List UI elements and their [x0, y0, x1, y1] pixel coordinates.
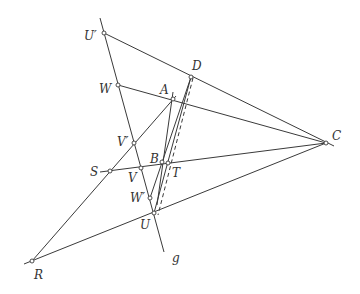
geometry-diagram: U′ D W A C V′ S B T V W′ U R g: [0, 0, 360, 294]
point-v-prime: [132, 141, 136, 145]
line-w-c: [118, 85, 326, 143]
label-v-prime: V′: [117, 135, 129, 149]
point-s: [108, 169, 112, 173]
point-b: [160, 160, 164, 164]
label-r: R: [33, 268, 43, 282]
point-u: [152, 211, 156, 215]
point-a: [171, 97, 175, 101]
line-r-a: [32, 96, 176, 261]
line-g: [100, 18, 164, 252]
point-w: [116, 83, 120, 87]
label-v: V: [128, 171, 138, 185]
label-w: W: [99, 82, 113, 96]
point-v: [139, 166, 143, 170]
point-w-prime: [148, 196, 152, 200]
point-r: [30, 259, 34, 263]
label-u-prime: U′: [84, 29, 97, 43]
dashed-line-d-t: [158, 78, 193, 215]
label-u: U: [140, 218, 151, 232]
label-d: D: [191, 59, 202, 73]
point-c: [324, 141, 328, 145]
label-w-prime: W′: [130, 191, 145, 205]
line-uprime-c: [104, 33, 334, 146]
point-t: [166, 161, 170, 165]
label-c: C: [332, 129, 341, 143]
label-a: A: [159, 83, 169, 97]
point-d: [189, 75, 193, 79]
label-s: S: [90, 165, 98, 179]
line-s-c: [100, 143, 326, 172]
label-t: T: [172, 166, 181, 180]
line-r-c: [24, 143, 326, 264]
label-g: g: [172, 251, 180, 265]
point-u-prime: [102, 31, 106, 35]
label-b: B: [149, 152, 159, 166]
